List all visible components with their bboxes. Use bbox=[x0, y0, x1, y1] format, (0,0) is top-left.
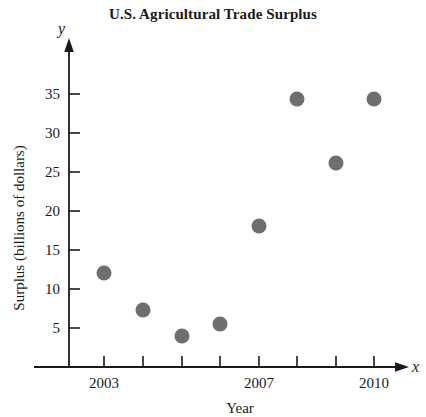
data-point bbox=[136, 303, 151, 318]
data-point bbox=[329, 156, 344, 171]
x-axis-variable-label: x bbox=[411, 358, 419, 375]
y-axis-arrowhead bbox=[64, 38, 74, 52]
y-tick-label-20: 20 bbox=[45, 203, 60, 219]
y-tick-label-5: 5 bbox=[53, 320, 61, 336]
x-axis-title: Year bbox=[226, 400, 254, 416]
x-axis-arrowhead bbox=[395, 362, 409, 372]
data-point bbox=[367, 92, 382, 107]
data-point bbox=[252, 219, 267, 234]
y-tick-label-15: 15 bbox=[45, 242, 60, 258]
y-tick-label-30: 30 bbox=[45, 125, 60, 141]
data-point bbox=[290, 92, 305, 107]
chart-figure: U.S. Agricultural Trade Surplus y x 35 3… bbox=[0, 0, 426, 417]
x-tick-label-2007: 2007 bbox=[244, 375, 275, 391]
y-axis-variable-label: y bbox=[56, 20, 66, 38]
scatter-plot: y x 35 30 25 20 15 10 5 2003 2007 2010 Y… bbox=[0, 0, 426, 417]
x-tick-label-2010: 2010 bbox=[359, 375, 389, 391]
data-point bbox=[213, 317, 228, 332]
y-tick-label-35: 35 bbox=[45, 86, 60, 102]
y-axis-title: Surplus (billions of dollars) bbox=[11, 145, 28, 310]
data-point bbox=[175, 329, 190, 344]
y-tick-label-10: 10 bbox=[45, 281, 60, 297]
data-point bbox=[97, 266, 112, 281]
x-tick-label-2003: 2003 bbox=[89, 375, 119, 391]
y-tick-label-25: 25 bbox=[45, 164, 60, 180]
